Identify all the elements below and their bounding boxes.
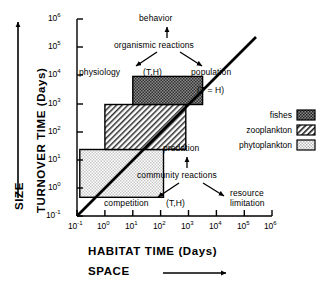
legend-swatches <box>297 110 315 150</box>
legend-label-fishes: fishes <box>232 111 292 120</box>
annotation-physiology: physiology <box>79 68 120 77</box>
x-tick-label-3: 103 <box>181 222 194 231</box>
x-tick-label-5: 105 <box>237 222 250 231</box>
annotation-community-reactions: community reactions <box>137 171 217 180</box>
x-axis-ticks <box>77 210 272 216</box>
x-tick-label-4: 104 <box>209 222 222 231</box>
legend-swatch-zooplankton <box>297 125 315 135</box>
arrow-to-physiology <box>136 52 157 66</box>
y-tick-label-0: 100 <box>48 183 61 192</box>
arrow-to-population <box>180 52 202 66</box>
y-axis-caption-size: SIZE <box>14 182 26 210</box>
annotation-t-equals-h: (T = H) <box>197 86 224 95</box>
legend-label-phytoplankton: phytoplankton <box>222 141 292 150</box>
y-tick-label-4: 104 <box>48 70 61 79</box>
annotation-population: population <box>191 68 231 77</box>
x-tick-label-minus1: 10-1 <box>68 222 82 231</box>
y-tick-label-3: 103 <box>48 99 61 108</box>
annotation-limitation: limitation <box>230 199 265 208</box>
y-axis-caption-turnover-time: TURNOVER TIME (Days) <box>36 67 48 213</box>
figure-log-log-scale-plot: 106 105 104 103 102 101 100 10-1 10-1 10… <box>0 0 331 290</box>
annotation-organismic-reactions: organismic reactions <box>114 41 194 50</box>
annotation-th-bottom: (T,H) <box>166 199 185 208</box>
annotation-behavior: behavior <box>139 14 172 23</box>
x-tick-label-0: 100 <box>97 222 110 231</box>
y-tick-label-minus1: 10-1 <box>46 211 60 220</box>
x-tick-label-6: 106 <box>264 222 277 231</box>
annotation-competition: competition <box>104 199 149 208</box>
legend-label-zooplankton: zooplankton <box>232 126 292 135</box>
arrow-to-resource-limitation <box>203 183 224 196</box>
legend-swatch-phytoplankton <box>297 140 315 150</box>
y-tick-label-1: 101 <box>48 155 61 164</box>
annotation-th-top: (T,H) <box>143 68 162 77</box>
y-tick-label-2: 102 <box>48 127 61 136</box>
annotation-predation: predation <box>163 144 199 153</box>
y-tick-label-6: 106 <box>48 14 61 23</box>
x-axis-caption-habitat-time: HABITAT TIME (Days) <box>88 246 217 258</box>
legend-swatch-fishes <box>297 110 315 120</box>
x-tick-label-2: 102 <box>153 222 166 231</box>
y-tick-label-5: 105 <box>48 42 61 51</box>
annotation-resource: resource <box>230 189 264 198</box>
x-tick-label-1: 101 <box>125 222 138 231</box>
x-axis-caption-space: SPACE <box>88 266 130 278</box>
